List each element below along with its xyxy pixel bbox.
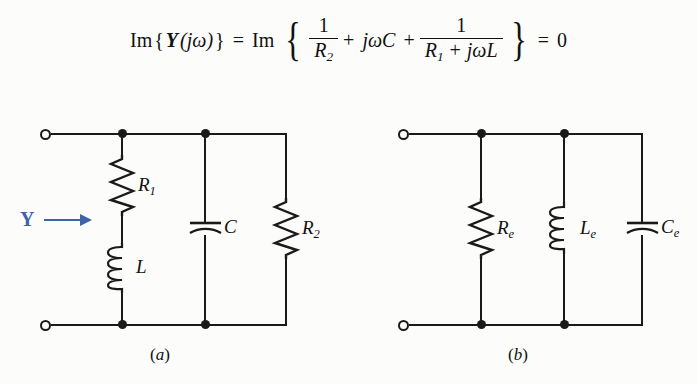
resistor-Re-icon bbox=[465, 198, 497, 259]
inductor-Le-icon bbox=[546, 202, 572, 254]
label-Ce-subscript: e bbox=[674, 226, 680, 240]
figure-canvas: Im{Y(jω)} = Im { 1 R2 + jωC + 1 R1+jωL } bbox=[0, 0, 697, 384]
label-Ce-symbol: C bbox=[661, 216, 674, 237]
circuit-b-top-rail bbox=[409, 133, 643, 135]
circuit-b-caption: (b) bbox=[478, 345, 558, 365]
caption-b-close: ) bbox=[522, 345, 528, 364]
circuit-b-right-rail-bottom bbox=[641, 235, 643, 325]
circuit-b-branch1-wire-bottom bbox=[480, 258, 482, 325]
circuit-diagram-b: Re Le Ce (b) bbox=[0, 0, 697, 384]
label-Re-symbol: R bbox=[497, 217, 509, 238]
circuit-b-bottom-rail bbox=[409, 324, 643, 326]
circuit-b-bottom-left-terminal bbox=[398, 320, 409, 331]
circuit-b-node-bottom-2 bbox=[560, 320, 569, 329]
circuit-b-top-left-terminal bbox=[398, 129, 409, 140]
component-label-Ce: Ce bbox=[661, 216, 679, 241]
label-Le-symbol: L bbox=[580, 217, 591, 238]
caption-b-letter: b bbox=[514, 345, 523, 364]
circuit-b-branch2-wire-top bbox=[563, 133, 565, 203]
circuit-b-branch2-wire-bottom bbox=[563, 253, 565, 325]
label-Le-subscript: e bbox=[591, 227, 597, 241]
label-Re-subscript: e bbox=[509, 227, 515, 241]
circuit-b-right-rail-top bbox=[641, 133, 643, 222]
circuit-b-node-top-1 bbox=[477, 129, 486, 138]
circuit-b-node-top-2 bbox=[560, 129, 569, 138]
component-label-Re: Re bbox=[497, 217, 514, 242]
component-label-Le: Le bbox=[580, 217, 596, 242]
capacitor-Ce-icon bbox=[624, 218, 661, 238]
circuit-b-branch1-wire-top bbox=[480, 133, 482, 200]
circuit-b-node-bottom-1 bbox=[477, 320, 486, 329]
